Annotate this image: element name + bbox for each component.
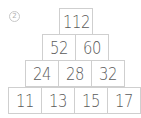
cell-value: 60 bbox=[83, 37, 101, 58]
pyramid-cell: 11 bbox=[8, 87, 42, 114]
cell-value: 11 bbox=[16, 90, 34, 111]
cell-value: 13 bbox=[49, 90, 67, 111]
cell-value: 32 bbox=[99, 63, 117, 84]
pyramid-row-4: 11 13 15 17 bbox=[8, 87, 141, 114]
cell-value: 17 bbox=[115, 90, 133, 111]
pyramid-row-3: 24 28 32 bbox=[25, 60, 125, 87]
pyramid-cell: 24 bbox=[25, 60, 59, 87]
pyramid-cell: 60 bbox=[75, 34, 109, 61]
pyramid-cell: 32 bbox=[91, 60, 125, 87]
pyramid-cell: 17 bbox=[107, 87, 141, 114]
cell-value: 112 bbox=[63, 11, 90, 32]
problem-number-label: 2 bbox=[9, 11, 20, 22]
cell-value: 52 bbox=[50, 37, 68, 58]
pyramid-cell: 52 bbox=[42, 34, 76, 61]
pyramid-cell: 28 bbox=[58, 60, 92, 87]
cell-value: 24 bbox=[33, 63, 51, 84]
pyramid-row-2: 52 60 bbox=[42, 34, 109, 61]
pyramid-cell: 13 bbox=[41, 87, 75, 114]
pyramid-cell: 15 bbox=[74, 87, 108, 114]
pyramid-cell: 112 bbox=[59, 8, 93, 35]
pyramid-row-1: 112 bbox=[59, 8, 93, 35]
cell-value: 15 bbox=[82, 90, 100, 111]
cell-value: 28 bbox=[66, 63, 84, 84]
